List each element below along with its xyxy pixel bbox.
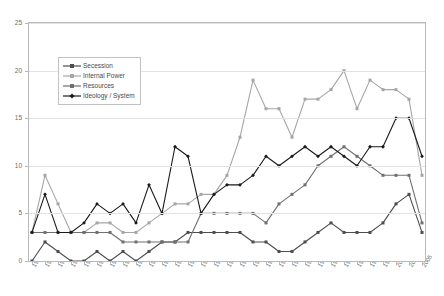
x-axis-tick xyxy=(344,262,345,265)
x-axis-tick xyxy=(149,262,150,265)
data-point xyxy=(135,231,138,234)
data-point xyxy=(200,193,203,196)
data-point xyxy=(408,174,411,177)
legend-swatch-resources xyxy=(62,81,82,91)
y-axis-tick-label: 25 xyxy=(2,20,22,27)
x-axis-tick xyxy=(71,262,72,265)
data-point xyxy=(239,231,242,234)
x-axis-tick xyxy=(123,262,124,265)
data-point xyxy=(343,231,346,234)
data-point xyxy=(148,250,151,253)
data-point xyxy=(44,174,47,177)
data-point xyxy=(291,250,294,253)
data-point xyxy=(83,231,86,234)
data-point xyxy=(382,221,385,224)
y-axis-tick-label: 20 xyxy=(2,68,22,75)
data-point xyxy=(278,250,281,253)
x-axis-tick xyxy=(175,262,176,265)
data-point xyxy=(213,231,216,234)
data-point xyxy=(252,79,255,82)
x-axis-tick xyxy=(162,262,163,265)
x-axis-tick xyxy=(396,262,397,265)
legend-label-secession: Secession xyxy=(83,63,113,70)
data-point xyxy=(109,221,112,224)
data-point xyxy=(278,107,281,110)
data-point xyxy=(187,231,190,234)
data-point xyxy=(200,231,203,234)
data-point xyxy=(278,202,281,205)
data-point xyxy=(148,221,151,224)
legend-swatch-ideology-system xyxy=(62,91,82,101)
x-axis-tick xyxy=(240,262,241,265)
x-axis-tick xyxy=(357,262,358,265)
data-point xyxy=(330,155,333,158)
data-point xyxy=(382,174,385,177)
data-point xyxy=(408,98,411,101)
data-point xyxy=(265,107,268,110)
data-point xyxy=(395,88,398,91)
legend-item: Internal Power xyxy=(62,71,135,81)
data-point xyxy=(381,145,385,149)
x-axis-tick xyxy=(331,262,332,265)
data-point xyxy=(421,174,424,177)
x-axis-tick xyxy=(227,262,228,265)
data-point xyxy=(109,260,112,262)
y-axis-tick-label: 10 xyxy=(2,163,22,170)
data-point xyxy=(187,240,190,243)
x-axis-tick xyxy=(409,262,410,265)
data-point xyxy=(356,155,359,158)
data-point xyxy=(304,98,307,101)
data-point xyxy=(122,240,125,243)
data-point xyxy=(369,231,372,234)
data-point xyxy=(382,88,385,91)
legend-label-internal-power: Internal Power xyxy=(83,73,125,80)
gridline xyxy=(29,213,425,214)
x-axis-tick xyxy=(292,262,293,265)
x-axis-tick xyxy=(97,262,98,265)
x-axis-tick xyxy=(84,262,85,265)
legend-item: Secession xyxy=(62,61,135,71)
x-axis-tick xyxy=(110,262,111,265)
data-point xyxy=(343,145,346,148)
data-point xyxy=(96,221,99,224)
data-point xyxy=(122,231,125,234)
legend-item: Resources xyxy=(62,81,135,91)
x-axis-tick xyxy=(253,262,254,265)
data-point xyxy=(44,231,47,234)
legend-swatch-internal-power xyxy=(62,71,82,81)
x-axis-tick xyxy=(188,262,189,265)
data-point xyxy=(317,231,320,234)
data-point xyxy=(420,154,424,158)
x-axis-tick xyxy=(45,262,46,265)
line-chart: 0510152025 19451947194919511953195519571… xyxy=(0,0,444,296)
data-point xyxy=(148,240,151,243)
data-point xyxy=(252,240,255,243)
data-point xyxy=(44,240,47,243)
data-point xyxy=(135,240,138,243)
series-secession xyxy=(31,193,424,261)
data-point xyxy=(226,174,229,177)
x-axis-tick xyxy=(279,262,280,265)
data-point xyxy=(226,231,229,234)
x-axis-tick xyxy=(370,262,371,265)
x-axis-tick xyxy=(214,262,215,265)
x-axis-tick xyxy=(266,262,267,265)
data-point xyxy=(122,250,125,253)
y-axis-tick-label: 0 xyxy=(2,258,22,265)
data-point xyxy=(57,250,60,253)
data-point xyxy=(317,98,320,101)
x-axis-tick xyxy=(58,262,59,265)
data-point xyxy=(174,240,177,243)
data-point xyxy=(330,88,333,91)
data-point xyxy=(356,107,359,110)
data-point xyxy=(330,221,333,224)
data-point xyxy=(265,240,268,243)
x-axis-tick xyxy=(305,262,306,265)
data-point xyxy=(395,202,398,205)
data-point xyxy=(109,231,112,234)
y-axis-tick-label: 5 xyxy=(2,210,22,217)
x-axis-tick xyxy=(32,262,33,265)
data-point xyxy=(187,202,190,205)
x-axis-tick xyxy=(201,262,202,265)
data-point xyxy=(265,221,268,224)
